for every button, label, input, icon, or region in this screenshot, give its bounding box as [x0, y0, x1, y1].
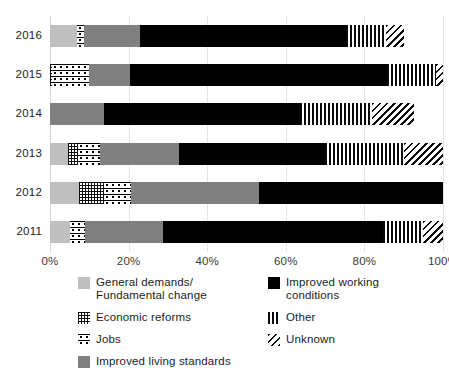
legend-label-jobs: Jobs	[96, 333, 121, 346]
legend-label-working: Improved working conditions	[286, 276, 379, 302]
segment-2012-working	[259, 182, 443, 204]
segment-2013-jobs	[78, 143, 100, 165]
segment-2016-unknown	[386, 25, 404, 47]
legend-column-right: Improved working conditionsOtherUnknown	[268, 276, 443, 355]
legend-label-econ: Economic reforms	[96, 311, 191, 324]
legend-column-left: General demands/ Fundamental changeEcono…	[78, 276, 258, 377]
segment-2011-unknown	[423, 221, 443, 243]
legend-label-general: General demands/ Fundamental change	[96, 276, 207, 302]
legend-label-living: Improved living standards	[96, 355, 231, 368]
x-tick-40pct: 40%	[184, 255, 230, 267]
x-tick-60pct: 60%	[263, 255, 309, 267]
chart-legend: General demands/ Fundamental changeEcono…	[0, 276, 449, 384]
gridline-100	[443, 16, 444, 252]
bar-2012	[50, 182, 443, 204]
segment-2011-jobs	[70, 221, 85, 243]
segment-2011-general	[50, 221, 70, 243]
segment-2012-jobs	[104, 182, 131, 204]
y-tick-2015: 2015	[0, 68, 42, 80]
segment-2015-working	[130, 64, 387, 86]
legend-swatch-unknown-icon	[268, 334, 280, 346]
gridline-80	[364, 16, 365, 252]
segment-2013-other	[325, 143, 404, 165]
bar-2014	[50, 103, 443, 125]
x-tick-0pct: 0%	[27, 255, 73, 267]
y-axis-line	[50, 16, 51, 252]
segment-2014-working	[104, 103, 300, 125]
segment-2013-living	[100, 143, 179, 165]
chart-figure: 201620152014201320122011 0%20%40%60%80%1…	[0, 0, 449, 384]
bar-2016	[50, 25, 443, 47]
legend-item-unknown[interactable]: Unknown	[268, 333, 443, 346]
segment-2016-general	[50, 25, 77, 47]
gridline-60	[286, 16, 287, 252]
segment-2012-living	[131, 182, 259, 204]
segment-2014-other	[300, 103, 372, 125]
legend-swatch-econ-icon	[78, 312, 90, 324]
legend-swatch-working-icon	[268, 277, 280, 289]
segment-2016-living	[84, 25, 140, 47]
legend-label-unknown: Unknown	[286, 333, 335, 346]
segment-2013-working	[179, 143, 325, 165]
gridline-20	[129, 16, 130, 252]
y-tick-2014: 2014	[0, 107, 42, 119]
x-tick-100pct: 100%	[420, 255, 449, 267]
segment-2016-jobs	[77, 25, 84, 47]
x-tick-20pct: 20%	[106, 255, 152, 267]
legend-item-econ[interactable]: Economic reforms	[78, 311, 258, 324]
legend-swatch-living-icon	[78, 356, 90, 368]
segment-2015-living	[89, 64, 130, 86]
y-tick-2016: 2016	[0, 29, 42, 41]
segment-2015-other	[387, 64, 436, 86]
segment-2013-econ	[68, 143, 78, 165]
x-tick-80pct: 80%	[341, 255, 387, 267]
segment-2013-unknown	[404, 143, 443, 165]
bar-2011	[50, 221, 443, 243]
segment-2014-living	[50, 103, 104, 125]
segment-2016-other	[346, 25, 386, 47]
legend-label-other: Other	[286, 311, 316, 324]
segment-2012-general	[50, 182, 79, 204]
legend-swatch-other-icon	[268, 312, 280, 324]
legend-swatch-jobs-icon	[78, 334, 90, 346]
segment-2016-working	[140, 25, 346, 47]
legend-item-other[interactable]: Other	[268, 311, 443, 324]
gridline-40	[207, 16, 208, 252]
legend-swatch-general-icon	[78, 277, 90, 289]
legend-item-jobs[interactable]: Jobs	[78, 333, 258, 346]
plot-area	[50, 16, 443, 252]
legend-item-working[interactable]: Improved working conditions	[268, 276, 443, 302]
bar-2013	[50, 143, 443, 165]
segment-2015-jobs	[52, 64, 89, 86]
segment-2011-other	[383, 221, 423, 243]
segment-2014-unknown	[372, 103, 414, 125]
y-tick-2011: 2011	[0, 225, 42, 237]
segment-2015-unknown	[436, 64, 443, 86]
segment-2011-living	[85, 221, 163, 243]
bar-2015	[50, 64, 443, 86]
segment-2011-working	[163, 221, 383, 243]
y-tick-2013: 2013	[0, 147, 42, 159]
segment-2013-general	[50, 143, 68, 165]
y-tick-2012: 2012	[0, 186, 42, 198]
legend-item-general[interactable]: General demands/ Fundamental change	[78, 276, 258, 302]
segment-2012-econ	[79, 182, 104, 204]
legend-item-living[interactable]: Improved living standards	[78, 355, 258, 368]
